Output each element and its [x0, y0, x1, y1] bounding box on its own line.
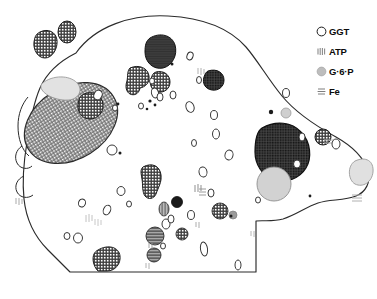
solid-gray-circle-icon [316, 66, 327, 77]
vesicle-30 [299, 133, 305, 141]
legend-item-ggt: GGT [316, 26, 374, 37]
legend-label-atp: ATP [329, 46, 347, 57]
vesicle-13 [208, 189, 214, 197]
lesion-dot-dark [172, 197, 183, 208]
speck-03 [146, 108, 149, 111]
focus-atp-faint-d [16, 198, 22, 205]
legend-label-ggt: GGT [329, 26, 349, 37]
legend-item-atp: ATP [316, 46, 374, 57]
vesicle-25 [188, 211, 195, 220]
speck-05 [119, 152, 122, 155]
vesicle-09 [213, 129, 220, 139]
focus-dot-right [269, 110, 273, 114]
lesion-upper-right [203, 70, 224, 90]
vesicle-20 [74, 233, 83, 243]
vesicle-27 [150, 78, 155, 84]
horizontal-stripes-icon [316, 86, 327, 97]
speck-08 [171, 63, 174, 66]
legend-item-fe: Fe [316, 86, 374, 97]
focus-g6p-right-edge [349, 159, 373, 185]
focus-fe-d [176, 228, 188, 240]
vesicle-10 [192, 140, 197, 147]
vertical-stripes-icon [316, 46, 327, 57]
speck-06 [230, 215, 233, 218]
focus-fe-c [212, 203, 228, 219]
vesicle-29 [113, 105, 118, 111]
vesicle-23 [283, 89, 290, 98]
vesicle-31 [197, 77, 202, 84]
focus-g6p-upper-right [281, 108, 291, 118]
lesion-bottom-edge [93, 247, 120, 271]
vesicle-04 [107, 145, 117, 155]
vesicle-16 [117, 187, 125, 196]
vesicle-06 [170, 91, 176, 99]
legend-item-g6p: G·6·P [316, 66, 374, 77]
speck-01 [148, 99, 151, 102]
vesicle-03 [157, 93, 163, 101]
legend: GGT ATP G·6·P Fe [316, 26, 374, 97]
vesicle-34 [256, 197, 261, 203]
lesion-top-left-a [34, 30, 57, 58]
focus-fe-a [146, 227, 164, 245]
speck-02 [154, 104, 157, 107]
speck-07 [309, 195, 312, 198]
speck-04 [117, 103, 120, 106]
legend-label-fe: Fe [329, 86, 340, 97]
open-circle-icon [316, 26, 327, 37]
vesicle-21 [294, 160, 301, 168]
vesicle-26 [168, 215, 174, 223]
vesicle-19 [64, 233, 70, 240]
vesicle-22 [332, 139, 340, 149]
vesicle-08 [211, 111, 218, 120]
focus-fe-b [147, 248, 161, 262]
vesicle-15 [235, 260, 241, 270]
vesicle-32 [127, 201, 132, 207]
focus-g6p-right [257, 167, 291, 201]
lesion-top-left-b [58, 21, 76, 43]
focus-atp-b [159, 202, 169, 216]
legend-label-g6p: G·6·P [329, 66, 353, 77]
vesicle-33 [161, 243, 166, 249]
vesicle-28 [139, 103, 144, 109]
